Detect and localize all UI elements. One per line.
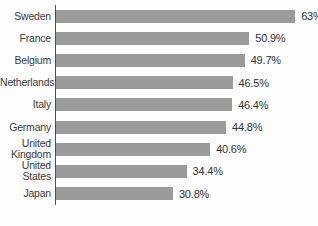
bar-row: United States34.4% <box>0 160 318 182</box>
category-label: France <box>0 33 55 44</box>
value-label: 40.6% <box>216 143 246 155</box>
category-label: Sweden <box>0 11 55 22</box>
bar-row: Belgium49.7% <box>0 49 318 71</box>
bar-track: 50.9% <box>55 27 318 49</box>
value-label: 30.8% <box>179 188 209 200</box>
bar-track: 63% <box>55 5 318 27</box>
value-label: 50.9% <box>255 32 285 44</box>
category-label: Japan <box>0 188 55 199</box>
bar-track: 30.8% <box>55 183 318 205</box>
value-label: 46.4% <box>238 99 268 111</box>
bar <box>56 98 232 111</box>
category-label: Belgium <box>0 55 55 66</box>
bar-track: 49.7% <box>55 49 318 71</box>
bar <box>56 76 233 89</box>
bar-row: Germany44.8% <box>0 116 318 138</box>
bar-chart-rows: Sweden63%France50.9%Belgium49.7%Netherla… <box>0 5 318 205</box>
value-label: 49.7% <box>251 54 281 66</box>
bar-row: Italy46.4% <box>0 94 318 116</box>
value-label: 46.5% <box>239 77 269 89</box>
bar <box>56 143 210 156</box>
category-label: Italy <box>0 99 55 110</box>
bar-track: 40.6% <box>55 138 318 160</box>
bar-track: 44.8% <box>55 116 318 138</box>
bar <box>56 10 295 23</box>
bar <box>56 32 249 45</box>
bar-track: 46.5% <box>55 72 318 94</box>
category-label: Germany <box>0 122 55 133</box>
value-label: 34.4% <box>193 165 223 177</box>
bar-row: Netherlands46.5% <box>0 72 318 94</box>
bar <box>56 187 173 200</box>
bar-row: France50.9% <box>0 27 318 49</box>
category-label: United States <box>0 160 55 182</box>
bar <box>56 121 226 134</box>
bar-track: 46.4% <box>55 94 318 116</box>
category-label: Netherlands <box>0 77 55 88</box>
bar-row: Sweden63% <box>0 5 318 27</box>
bar <box>56 165 187 178</box>
value-label: 44.8% <box>232 121 262 133</box>
bar-track: 34.4% <box>55 160 318 182</box>
category-label: United Kingdom <box>0 138 55 160</box>
bar-chart: Sweden63%France50.9%Belgium49.7%Netherla… <box>0 0 318 226</box>
value-label: 63% <box>301 10 318 22</box>
bar-row: Japan30.8% <box>0 183 318 205</box>
bar <box>56 54 245 67</box>
bar-row: United Kingdom40.6% <box>0 138 318 160</box>
